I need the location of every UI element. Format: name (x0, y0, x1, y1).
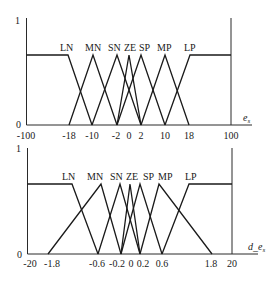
set-label-SN: SN (108, 42, 121, 53)
curve-SP (117, 55, 165, 125)
set-label-LP: LP (184, 42, 196, 53)
set-label-MP: MP (157, 42, 172, 53)
x-tick: 18 (184, 130, 194, 141)
x-tick: 1.8 (205, 258, 218, 269)
set-label-MP: MP (158, 171, 173, 182)
set-label-SP: SP (143, 171, 155, 182)
chart-d-es: 1 0 LN MN SN ZE SP MP LP -20 -1.8 -0.6 -… (16, 143, 265, 269)
x-tick: -0.2 (109, 258, 125, 269)
x-tick: 0 (129, 258, 134, 269)
curve-LN (27, 55, 93, 125)
x-axis-label: es (243, 112, 250, 125)
set-label-LN: LN (62, 171, 75, 182)
x-tick: -18 (62, 130, 75, 141)
set-label-LN: LN (60, 42, 73, 53)
x-tick: -100 (17, 130, 35, 141)
y-tick-0: 0 (16, 119, 21, 130)
x-tick: 2 (139, 130, 144, 141)
set-label-SN: SN (110, 171, 123, 182)
set-label-ZE: ZE (124, 42, 136, 53)
curve-LP (162, 184, 232, 254)
x-tick: -1.8 (44, 258, 60, 269)
x-tick: -20 (23, 258, 36, 269)
y-tick-0: 0 (17, 249, 22, 260)
x-tick: 0.6 (156, 258, 169, 269)
curve-SN (92, 55, 141, 125)
x-tick: 100 (224, 130, 239, 141)
set-label-MN: MN (85, 42, 101, 53)
x-tick: -2 (112, 130, 120, 141)
x-tick: 0 (127, 130, 132, 141)
y-tick-1: 1 (16, 143, 21, 154)
x-tick: -10 (85, 130, 98, 141)
x-tick: 20 (227, 258, 237, 269)
curve-MN (69, 55, 117, 125)
x-tick: 0.2 (137, 258, 150, 269)
set-label-MN: MN (87, 171, 103, 182)
set-label-SP: SP (139, 42, 151, 53)
set-label-LP: LP (185, 171, 197, 182)
membership-function-figure: 1 0 LN MN SN ZE SP MP LP -100 -18 -10 -2… (0, 0, 278, 281)
set-label-ZE: ZE (126, 171, 138, 182)
x-tick: -0.6 (89, 258, 105, 269)
curve-LP (165, 55, 231, 125)
chart-es: 1 0 LN MN SN ZE SP MP LP -100 -18 -10 -2… (15, 15, 252, 141)
curve-LN (28, 184, 99, 254)
y-tick-1: 1 (15, 15, 20, 26)
x-tick: 10 (160, 130, 170, 141)
curve-MP (141, 55, 189, 125)
x-axis-label: d_es (248, 241, 265, 254)
